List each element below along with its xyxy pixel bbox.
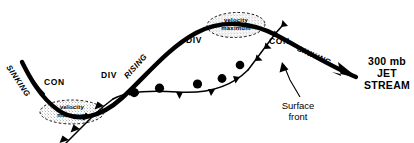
surface-front-label-line1: Surface bbox=[268, 100, 328, 111]
jet-stream-label: 300 mb JET STREAM bbox=[361, 56, 413, 91]
surface-front-label: Surface front bbox=[268, 100, 328, 123]
occluded-front-barbs-lower bbox=[176, 76, 240, 99]
jet-stream-diagram: SINKING CON DIV RISING DIV CON SINKING v… bbox=[0, 0, 414, 143]
jet-stream-label-line1: 300 mb bbox=[361, 56, 413, 68]
surface-front-leader-line bbox=[280, 62, 301, 97]
flow-label-div-top: DIV bbox=[186, 36, 202, 45]
velocity-maximum-ridge-label: velocity maximum bbox=[207, 17, 265, 37]
flow-label-con-right: CON bbox=[269, 37, 290, 46]
flow-label-div-left: DIV bbox=[101, 71, 117, 80]
flow-label-con-left: CON bbox=[44, 78, 65, 87]
velocity-maximum-trough-label: velocity maximum bbox=[40, 104, 104, 124]
velocity-maximum-trough-line2: maximum bbox=[40, 112, 104, 118]
velocity-maximum-ridge-line1: velocity bbox=[207, 17, 265, 23]
jet-stream-label-line3: STREAM bbox=[361, 80, 413, 92]
jet-stream-arrowhead bbox=[332, 62, 358, 78]
surface-front-label-line2: front bbox=[268, 111, 328, 122]
jet-stream-label-line2: JET bbox=[361, 68, 413, 80]
velocity-maximum-ridge-line2: maximum bbox=[207, 25, 265, 31]
velocity-maximum-trough-line1: velocity bbox=[40, 104, 104, 110]
